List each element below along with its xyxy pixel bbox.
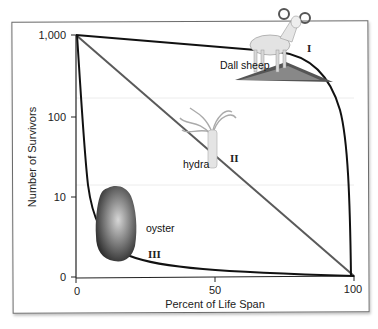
y-axis-title: Number of Survivors — [26, 106, 38, 207]
label-type-2: II — [230, 152, 239, 164]
y-tick-0: 0 — [60, 271, 66, 283]
x-tick-0: 0 — [74, 285, 80, 297]
label-dall-sheep: Dall sheep — [220, 59, 270, 71]
x-tick-50: 50 — [209, 284, 221, 296]
x-tick-100: 100 — [344, 283, 362, 295]
y-tick-100: 100 — [48, 111, 66, 123]
x-axis — [76, 276, 355, 283]
label-type-3: III — [148, 248, 161, 260]
y-tick-10: 10 — [54, 191, 66, 203]
label-oyster: oyster — [146, 222, 175, 234]
x-axis-title: Percent of Life Span — [165, 298, 265, 310]
label-hydra: hydra — [183, 158, 209, 170]
oyster-icon — [96, 186, 137, 261]
survivorship-chart: 1,000 100 10 0 0 50 100 Percent of Life … — [0, 0, 378, 329]
y-tick-1000: 1,000 — [38, 29, 66, 41]
y-axis — [71, 35, 76, 278]
label-type-1: I — [307, 42, 311, 54]
